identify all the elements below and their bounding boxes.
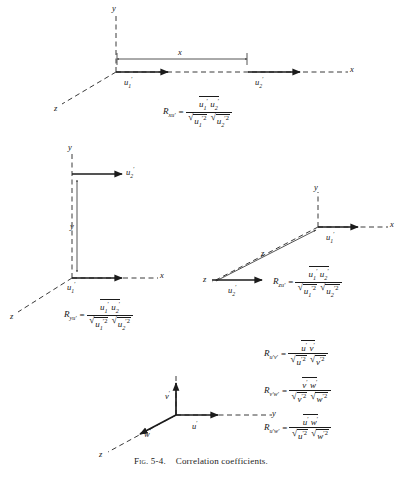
figure-caption-text: Correlation coefficients.: [176, 456, 268, 466]
formula-R-u-prime-w-prime: Ru′w′ = u′ w′ u′2 w′2: [264, 415, 331, 442]
formula-R-xu-prime: Rxu′ = u1′ u2′ u1′2 u2′2: [163, 97, 232, 129]
axis-label-x-diagram2: x: [160, 271, 164, 280]
vector-label-v-prime-diagram4: v′: [165, 390, 170, 400]
axis-label-x-diagram1: x: [350, 65, 354, 74]
figure-5-4: y x z u1′ u2′ x Rxu′ = u1′ u2′ u1′2 u2′2…: [0, 0, 402, 479]
separation-label-x-diagram1: x: [178, 48, 182, 57]
vector-label-w-prime-diagram4: w′: [144, 428, 151, 438]
figure-caption: Fig. 5-4. Correlation coefficients.: [0, 456, 402, 466]
axis-label-x-diagram3: x: [390, 220, 394, 229]
figure-linework: [0, 0, 402, 479]
diagram-single-point-components: [108, 374, 272, 452]
vector-label-u1-prime-diagram2: u1′: [67, 281, 75, 294]
diagram-lateral-separation-y: [18, 152, 158, 312]
axis-label-y-diagram1: y: [112, 4, 116, 13]
axis-label-z-diagram2: z: [10, 312, 13, 321]
figure-caption-prefix: Fig. 5-4.: [134, 456, 166, 466]
vector-label-u1-prime-diagram1: u1′: [124, 76, 132, 89]
separation-label-z-diagram3: z: [261, 249, 264, 258]
vector-label-u2-prime-diagram2: u2′: [126, 166, 134, 179]
formula-R-zu-prime: Rzu′ = u1′ u2′ u1′2 u2′2: [273, 267, 342, 299]
vector-label-u2-prime-diagram1: u2′: [255, 76, 263, 89]
vector-label-u-prime-diagram4: u′: [192, 420, 198, 430]
vector-label-u2-prime-diagram3: u2′: [228, 284, 236, 297]
z-axis-line: [62, 72, 116, 104]
formula-R-u-prime-v-prime: Ru′v′ = u′ v′ u′2 v′2: [264, 341, 328, 368]
separation-label-y-diagram2: y: [70, 222, 74, 231]
axis-label-y-diagram3: y: [314, 183, 318, 192]
formula-R-yu-prime: Ryu′ = u1′ u2′ u1′2 u2′2: [64, 300, 133, 332]
axis-label-z-diagram3: z: [203, 275, 206, 284]
diagram-longitudinal-separation-x: [62, 14, 348, 104]
axis-label-z-diagram1: z: [54, 104, 57, 113]
vector-label-u1-prime-diagram3: u1′: [326, 231, 334, 244]
axis-label-y-diagram2: y: [68, 143, 72, 152]
formula-R-v-prime-w-prime: Rv′w′ = v′ w′ v′2 w′2: [264, 378, 331, 405]
